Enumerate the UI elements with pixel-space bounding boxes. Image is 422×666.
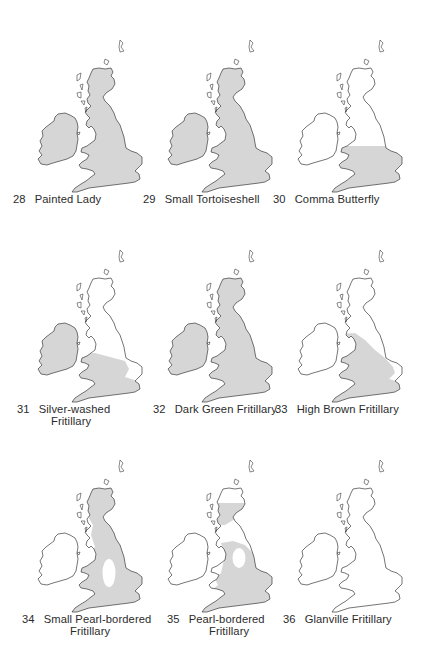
british-isles-map bbox=[285, 35, 410, 195]
map-number: 36 bbox=[283, 613, 296, 625]
map-caption: 36Glanville Fritillary bbox=[283, 613, 422, 625]
map-panel-28: 28Painted Lady bbox=[25, 35, 150, 240]
map-panel-36: 36Glanville Fritillary bbox=[285, 455, 410, 660]
map-number: 35 bbox=[167, 613, 180, 625]
map-number: 32 bbox=[153, 403, 166, 415]
map-panel-34: 34Small Pearl-bordered Fritillary bbox=[25, 455, 150, 660]
british-isles-map bbox=[155, 245, 280, 405]
map-panel-29: 29Small Tortoiseshell bbox=[155, 35, 280, 240]
species-name: Small Pearl-bordered bbox=[44, 613, 152, 625]
species-name: Silver-washed bbox=[39, 403, 111, 415]
species-name: Glanville Fritillary bbox=[305, 613, 392, 625]
unshaded-midlands bbox=[103, 559, 116, 587]
species-name: Dark Green Fritillary bbox=[175, 403, 277, 415]
british-isles-map bbox=[25, 455, 150, 615]
map-number: 34 bbox=[22, 613, 35, 625]
shaded-region-ireland bbox=[168, 323, 208, 375]
shaded-region-ireland bbox=[38, 323, 78, 375]
map-number: 31 bbox=[17, 403, 30, 415]
map-caption: 33High Brown Fritillary bbox=[275, 403, 422, 415]
british-isles-map bbox=[155, 35, 280, 195]
map-panel-30: 30Comma Butterfly bbox=[285, 35, 410, 240]
map-panel-35: 35Pearl-bordered Fritillary bbox=[155, 455, 280, 660]
shaded-region-britain bbox=[25, 485, 150, 625]
british-isles-map bbox=[25, 35, 150, 195]
species-name: Pearl-bordered bbox=[189, 613, 265, 625]
species-name: Small Tortoiseshell bbox=[165, 193, 260, 205]
unshaded-midlands bbox=[233, 548, 246, 568]
map-number: 33 bbox=[275, 403, 288, 415]
map-caption: 29Small Tortoiseshell bbox=[143, 193, 293, 205]
species-name-line2: Fritillary bbox=[17, 415, 167, 427]
map-caption: 28Painted Lady bbox=[13, 193, 163, 205]
species-name: Painted Lady bbox=[35, 193, 102, 205]
map-panel-31: 31Silver-washed Fritillary bbox=[25, 245, 150, 450]
british-isles-map bbox=[25, 245, 150, 405]
species-name-line2: Fritillary bbox=[22, 625, 172, 637]
map-panel-32: 32Dark Green Fritillary bbox=[155, 245, 280, 450]
map-panel-33: 33High Brown Fritillary bbox=[285, 245, 410, 450]
shaded-region-ireland bbox=[38, 113, 78, 165]
map-caption: 31Silver-washed Fritillary bbox=[17, 403, 167, 427]
shaded-region-ireland bbox=[168, 113, 208, 165]
map-caption: 34Small Pearl-bordered Fritillary bbox=[22, 613, 172, 637]
map-number: 28 bbox=[13, 193, 26, 205]
species-name: Comma Butterfly bbox=[295, 193, 380, 205]
british-isles-map bbox=[285, 245, 410, 405]
british-isles-map bbox=[285, 455, 410, 615]
map-number: 29 bbox=[143, 193, 156, 205]
species-name: High Brown Fritillary bbox=[297, 403, 399, 415]
british-isles-map bbox=[155, 455, 280, 615]
map-number: 30 bbox=[273, 193, 286, 205]
map-caption: 30Comma Butterfly bbox=[273, 193, 422, 205]
